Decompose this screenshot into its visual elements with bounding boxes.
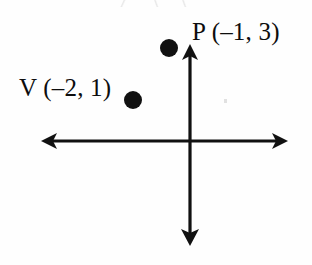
plot-point-v [124,91,142,109]
coordinate-plane-diagram: P (–1, 3) V (–2, 1) [0,0,312,265]
point-label-p: P (–1, 3) [192,19,280,44]
point-label-v: V (–2, 1) [19,75,111,100]
plot-point-p [160,39,178,57]
